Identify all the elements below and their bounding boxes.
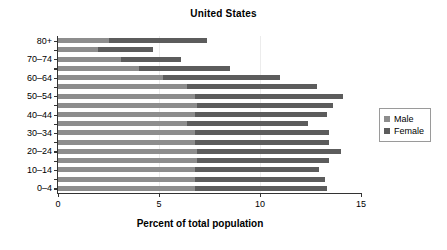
y-axis-tick-label: 80+ — [37, 36, 52, 46]
y-axis-tick-label: 60–64 — [27, 73, 52, 83]
legend-swatch-icon — [384, 116, 390, 122]
bar-segment-female — [187, 121, 308, 126]
y-axis-tick — [54, 96, 58, 97]
bar-row — [58, 140, 329, 145]
bar-row — [58, 112, 327, 117]
bar-segment-male — [58, 130, 195, 135]
y-axis-tick — [54, 115, 58, 116]
bar-segment-male — [58, 57, 121, 62]
bar-row — [58, 103, 333, 108]
legend-item: Male — [384, 113, 424, 125]
bar-segment-male — [58, 38, 109, 43]
bar-segment-female — [197, 149, 340, 154]
x-axis-tick-label: 15 — [346, 199, 376, 209]
x-axis-tick — [361, 193, 362, 197]
bar-segment-male — [58, 149, 197, 154]
y-axis-tick — [54, 68, 58, 69]
bar-segment-male — [58, 84, 187, 89]
bar-segment-female — [195, 130, 328, 135]
bar-segment-male — [58, 121, 187, 126]
legend-swatch-icon — [384, 128, 390, 134]
y-axis-tick — [54, 124, 58, 125]
bar-row — [58, 94, 343, 99]
bar-segment-male — [58, 186, 195, 191]
y-axis-tick — [54, 133, 58, 134]
y-axis-tick — [54, 142, 58, 143]
bar-segment-female — [139, 66, 230, 71]
y-axis-tick-label: 50–54 — [27, 91, 52, 101]
x-axis-tick — [260, 193, 261, 197]
bar-segment-female — [187, 84, 316, 89]
x-axis-title: Percent of total population — [0, 218, 400, 229]
y-axis-tick — [54, 87, 58, 88]
bar-segment-male — [58, 167, 195, 172]
y-axis-tick-label: 0–4 — [37, 183, 52, 193]
y-axis-tick-label: 10–14 — [27, 165, 52, 175]
bar-segment-male — [58, 47, 98, 52]
bar-row — [58, 177, 325, 182]
y-axis-tick — [54, 161, 58, 162]
plot-area: 0–410–1420–2430–3440–4450–5460–6470–7480… — [57, 36, 361, 194]
bar-segment-male — [58, 177, 195, 182]
bar-segment-male — [58, 103, 197, 108]
bar-segment-female — [195, 186, 326, 191]
bar-segment-male — [58, 66, 139, 71]
y-axis-tick — [54, 188, 58, 189]
bar-segment-female — [163, 75, 280, 80]
y-axis-tick — [54, 59, 58, 60]
x-axis-tick-label: 0 — [43, 199, 73, 209]
bar-segment-female — [195, 94, 342, 99]
bar-row — [58, 84, 317, 89]
bar-row — [58, 75, 280, 80]
legend-label: Female — [394, 125, 424, 137]
chart-legend: MaleFemale — [379, 108, 431, 142]
bar-segment-female — [109, 38, 208, 43]
bar-row — [58, 186, 327, 191]
y-axis-tick — [54, 105, 58, 106]
bar-row — [58, 158, 329, 163]
y-axis-tick — [54, 41, 58, 42]
bar-row — [58, 38, 207, 43]
bar-segment-male — [58, 158, 197, 163]
legend-item: Female — [384, 125, 424, 137]
bar-segment-male — [58, 94, 195, 99]
bar-series-group — [58, 36, 361, 193]
y-axis-tick-label: 40–44 — [27, 110, 52, 120]
x-axis-tick — [58, 193, 59, 197]
x-axis-tick-label: 5 — [144, 199, 174, 209]
bar-row — [58, 149, 341, 154]
bar-segment-female — [98, 47, 153, 52]
bar-segment-male — [58, 140, 195, 145]
bar-row — [58, 121, 308, 126]
bar-segment-female — [195, 140, 328, 145]
bar-row — [58, 57, 181, 62]
y-axis-tick — [54, 78, 58, 79]
bar-segment-male — [58, 112, 195, 117]
bar-row — [58, 66, 230, 71]
bar-segment-female — [121, 57, 182, 62]
bar-row — [58, 130, 329, 135]
bar-segment-male — [58, 75, 163, 80]
x-axis-tick — [159, 193, 160, 197]
y-axis-tick-label: 20–24 — [27, 146, 52, 156]
y-axis-tick — [54, 170, 58, 171]
legend-label: Male — [394, 113, 414, 125]
chart-figure: United States 0–410–1420–2430–3440–4450–… — [0, 0, 447, 250]
bar-row — [58, 47, 153, 52]
y-axis-tick-label: 70–74 — [27, 54, 52, 64]
bar-segment-female — [197, 103, 332, 108]
bar-segment-female — [197, 158, 328, 163]
bar-segment-female — [195, 112, 326, 117]
bar-segment-female — [195, 167, 318, 172]
y-axis-tick — [54, 151, 58, 152]
y-axis-tick — [54, 50, 58, 51]
bar-segment-female — [195, 177, 324, 182]
y-axis-tick-label: 30–34 — [27, 128, 52, 138]
x-axis-tick-label: 10 — [245, 199, 275, 209]
chart-title: United States — [0, 8, 447, 19]
y-axis-tick — [54, 179, 58, 180]
bar-row — [58, 167, 319, 172]
